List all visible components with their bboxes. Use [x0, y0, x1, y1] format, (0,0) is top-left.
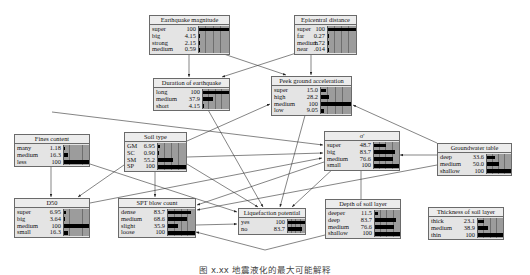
state-bars [320, 87, 351, 114]
probability-bar [478, 226, 488, 230]
node-spt-blow-count[interactable]: SPT blow countdensemediumslightloose83.7… [118, 198, 196, 238]
state-bar-row [158, 157, 186, 164]
state-bar-row [328, 40, 356, 47]
node-epicentral-distance[interactable]: Epicentral distancesuperfarmediumnear100… [294, 15, 357, 55]
state-labels: yesno [241, 219, 267, 233]
node-body: superbigmediumsmall6.953.6410016.3 [15, 208, 89, 237]
state-bar-row [321, 94, 351, 101]
node-groundwater-table[interactable]: Groundwater tabledeepmediumshallow33.650… [437, 143, 512, 176]
state-values: 1004.152.150.59 [178, 26, 198, 53]
probability-bar [288, 221, 305, 225]
probability-bar [478, 233, 503, 237]
state-values: 23.138.9100 [457, 218, 477, 238]
probability-bar [168, 217, 187, 221]
state-bar-row [487, 161, 511, 168]
state-bar-row [203, 103, 229, 110]
node-thickness-of-soil-layer[interactable]: Thickness of soil layerthickmediumthin23… [428, 207, 504, 240]
probability-bar [375, 225, 394, 229]
state-bars [477, 218, 503, 238]
probability-bar [64, 231, 68, 235]
state-bar-row [64, 223, 89, 230]
probability-bar [374, 144, 386, 148]
state-bar-row [328, 33, 356, 40]
state-bar-row [158, 150, 186, 157]
state-bar-row [203, 89, 229, 96]
probability-bar [487, 162, 499, 166]
node-title: Soil type [125, 133, 186, 142]
node-body: yesno10083.7 [239, 218, 305, 234]
node-title: Epicentral distance [295, 16, 356, 25]
probability-bar [375, 232, 400, 236]
state-labels: deeperdeepmediumshallow [328, 210, 354, 237]
state-bars [327, 26, 356, 53]
node-peak-ground-acceleration[interactable]: Peek ground accelerationsuperhighmediuml… [271, 76, 352, 116]
state-bars [167, 209, 195, 236]
state-bars [198, 26, 229, 53]
probability-bar [375, 218, 396, 222]
probability-bar [203, 104, 204, 108]
state-bar-row [478, 232, 503, 239]
probability-bar [168, 224, 178, 228]
probability-bar [203, 91, 229, 95]
node-earthquake-magnitude[interactable]: Earthquake magnitudesuperbigstrongmedium… [149, 15, 230, 55]
state-labels: manymediumless [17, 145, 43, 165]
node-duration-of-earthquake[interactable]: Duration of earthquakelongmediumshort100… [153, 78, 230, 111]
state-label: shallow [328, 230, 354, 237]
state-value: 100 [353, 162, 371, 169]
state-value: 4.15 [182, 103, 200, 110]
probability-bar [328, 28, 356, 32]
state-bar-row [478, 218, 503, 225]
probability-bar [321, 89, 326, 93]
state-bar-row [158, 163, 186, 170]
state-label: low [274, 107, 300, 114]
state-values: 11.583.776.6100 [354, 210, 374, 237]
state-bar-row [321, 87, 351, 94]
state-bar-row [321, 101, 351, 108]
state-bars [373, 142, 399, 169]
probability-bar [321, 95, 329, 99]
state-value: 83.7 [267, 226, 285, 233]
state-bars [287, 219, 305, 233]
state-bar-row [199, 40, 229, 47]
state-bar-row [328, 26, 356, 33]
probability-bar [374, 157, 393, 161]
state-value: .014 [311, 46, 325, 53]
probability-bar [487, 169, 511, 173]
node-liquefaction-potential[interactable]: Liquefaction potentialyesno10083.7 [238, 208, 306, 235]
figure-caption: 图 x.xx 地震液化的最大可能解释 [0, 263, 530, 275]
state-values: 83.768.635.9100 [147, 209, 167, 236]
state-bar-row [374, 156, 399, 163]
probability-bar [158, 158, 173, 162]
node-title: Duration of earthquake [154, 79, 229, 88]
state-bar-row [64, 152, 89, 159]
node-d50[interactable]: D50superbigmediumsmall6.953.6410016.3 [14, 198, 90, 238]
node-soil-type[interactable]: Soil typeGMSCSMSP6.950.9055.2100 [124, 132, 187, 172]
node-depth-of-soil-layer[interactable]: Depth of soil layerdeeperdeepmediumshall… [325, 199, 401, 239]
probability-bar [199, 41, 200, 45]
node-sigma-prime[interactable]: σ'superbigmediumsmall48.783.776.6100 [324, 131, 400, 171]
state-value: 100 [43, 159, 61, 166]
node-body: longmediumshort10037.94.15 [154, 88, 229, 110]
node-body: deeperdeepmediumshallow11.583.776.6100 [326, 209, 400, 238]
state-bar-row [487, 168, 511, 175]
state-bars [63, 209, 89, 236]
node-title: Fines content [15, 135, 89, 144]
state-bar-row [203, 96, 229, 103]
state-label: shallow [440, 168, 466, 175]
probability-bar [64, 153, 68, 157]
node-body: thickmediumthin23.138.9100 [429, 217, 503, 239]
probability-bar [64, 224, 89, 228]
state-values: 1.1816.3100 [43, 145, 63, 165]
state-bar-row [321, 107, 351, 114]
state-value: 16.3 [43, 229, 61, 236]
state-bar-row [199, 33, 229, 40]
state-bars [157, 143, 186, 170]
probability-bar [158, 165, 186, 169]
node-body: superbigstrongmedium1004.152.150.59 [150, 25, 229, 54]
state-values: 6.953.6410016.3 [43, 209, 63, 236]
state-bar-row [199, 46, 229, 53]
state-labels: superbigmediumsmall [327, 142, 353, 169]
node-fines-content[interactable]: Fines contentmanymediumless1.1816.3100 [14, 134, 90, 167]
state-bar-row [478, 225, 503, 232]
node-body: densemediumslightloose83.768.635.9100 [119, 208, 195, 237]
